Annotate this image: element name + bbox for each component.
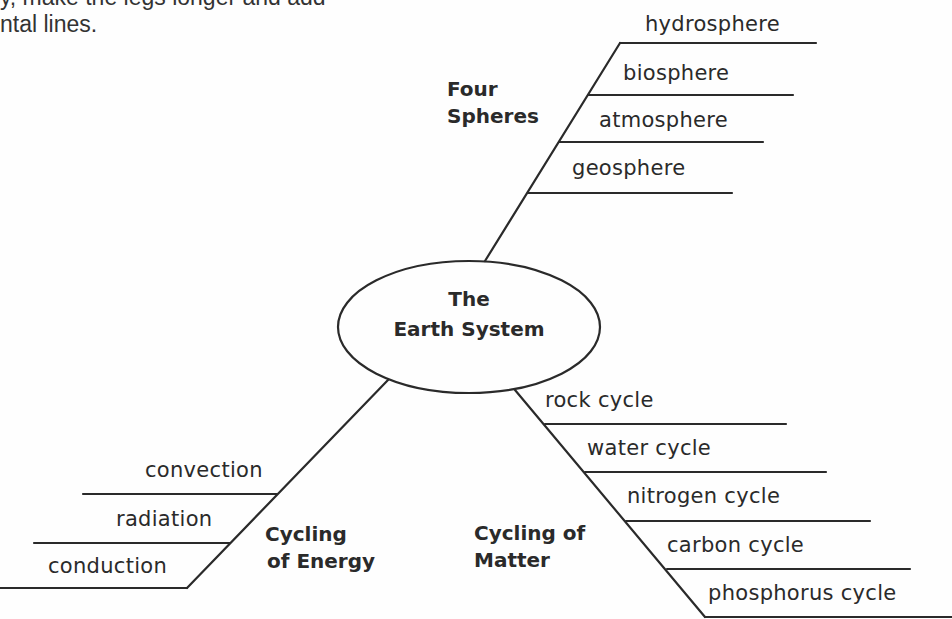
- label-atmosphere: atmosphere: [599, 108, 728, 132]
- label-radiation: radiation: [116, 507, 212, 531]
- label-rock-cycle: rock cycle: [545, 388, 654, 412]
- cycling-of-energy-title: Cycling of Energy: [265, 521, 375, 575]
- energy-title-line-2: of Energy: [265, 548, 375, 575]
- four-spheres-title: Four Spheres: [447, 76, 539, 130]
- matter-title-line-1: Cycling of: [474, 520, 585, 547]
- cycling-of-matter-title: Cycling of Matter: [474, 520, 585, 574]
- four-spheres-title-line-1: Four: [447, 76, 539, 103]
- label-geosphere: geosphere: [572, 156, 685, 180]
- label-hydrosphere: hydrosphere: [645, 12, 780, 36]
- label-conduction: conduction: [48, 554, 167, 578]
- matter-title-line-2: Matter: [474, 547, 585, 574]
- label-convection: convection: [145, 458, 263, 482]
- center-title-line-1: The: [338, 284, 600, 314]
- center-title-line-2: Earth System: [338, 314, 600, 344]
- label-water-cycle: water cycle: [587, 436, 711, 460]
- four-spheres-title-line-2: Spheres: [447, 103, 539, 130]
- energy-title-line-1: Cycling: [265, 521, 375, 548]
- label-phosphorus-cycle: phosphorus cycle: [708, 581, 897, 605]
- center-node: The Earth System: [338, 284, 600, 344]
- label-biosphere: biosphere: [623, 61, 729, 85]
- label-nitrogen-cycle: nitrogen cycle: [627, 484, 780, 508]
- label-carbon-cycle: carbon cycle: [667, 533, 804, 557]
